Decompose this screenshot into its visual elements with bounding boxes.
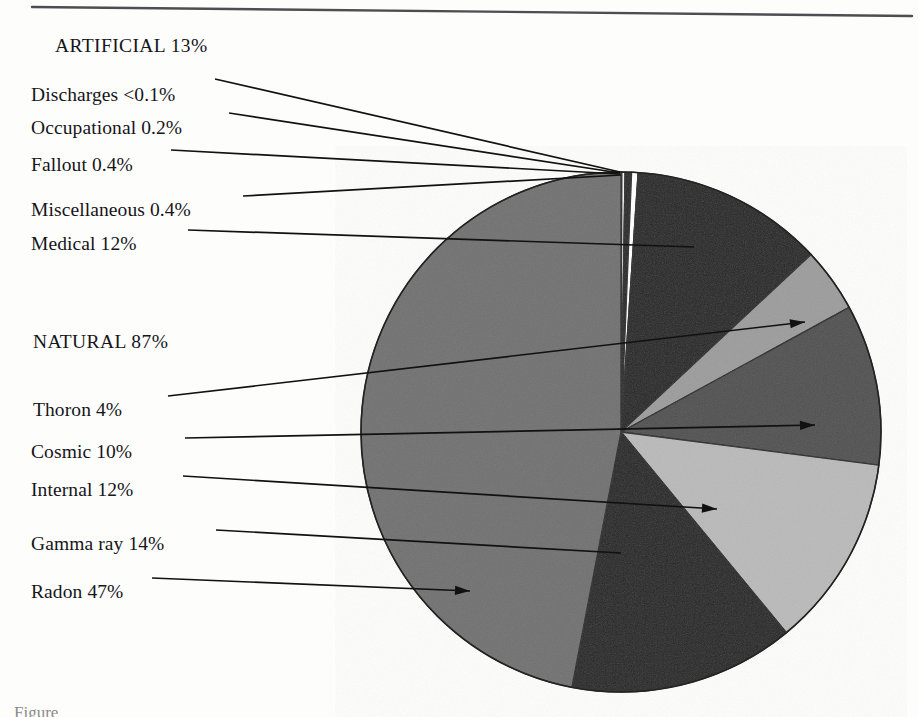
leader-internal xyxy=(183,476,717,509)
leader-cosmic xyxy=(185,425,815,438)
leader-cosmic-arrowhead-icon xyxy=(800,421,815,430)
figure-page: ARTIFICIAL 13% NATURAL 87% Discharges <0… xyxy=(0,0,918,717)
label-occupational: Occupational 0.2% xyxy=(31,118,182,138)
label-gamma-ray: Gamma ray 14% xyxy=(31,534,164,554)
leader-lines-layer xyxy=(0,0,918,717)
label-internal: Internal 12% xyxy=(31,480,133,500)
label-thoron: Thoron 4% xyxy=(33,400,122,420)
leader-radon xyxy=(152,578,470,591)
leader-thoron xyxy=(168,322,805,396)
group-heading-natural: NATURAL 87% xyxy=(33,332,168,352)
leader-discharges xyxy=(215,79,620,172)
label-miscellaneous: Miscellaneous 0.4% xyxy=(31,200,191,220)
label-cosmic: Cosmic 10% xyxy=(31,442,132,462)
leader-medical xyxy=(188,230,694,247)
label-medical: Medical 12% xyxy=(31,234,137,254)
group-heading-artificial: ARTIFICIAL 13% xyxy=(55,36,208,56)
leader-gammaray xyxy=(216,530,621,553)
label-radon: Radon 47% xyxy=(31,582,123,602)
leader-radon-arrowhead-icon xyxy=(455,586,470,595)
figure-caption: Figure xyxy=(14,703,58,717)
leader-thoron-arrowhead-icon xyxy=(790,319,805,328)
label-fallout: Fallout 0.4% xyxy=(31,155,133,175)
leader-miscellaneous xyxy=(243,175,621,196)
label-discharges: Discharges <0.1% xyxy=(31,85,175,105)
